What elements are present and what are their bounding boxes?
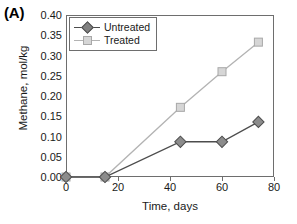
- x-tick-label: 60: [216, 182, 228, 193]
- y-tick-label: 0.35: [41, 30, 62, 41]
- y-tick-label: 0.20: [41, 91, 62, 102]
- x-tick-mark: [170, 177, 171, 181]
- x-tick-label: 40: [164, 182, 176, 193]
- legend-item-untreated: Untreated: [74, 21, 150, 34]
- y-tick-label: 0.40: [41, 10, 62, 21]
- data-point-marker: [218, 68, 226, 76]
- legend-label-untreated: Untreated: [100, 22, 150, 33]
- data-point-marker: [216, 136, 227, 147]
- x-tick-label: 0: [63, 182, 69, 193]
- y-tick-label: 0.05: [41, 151, 62, 162]
- y-axis-title: Methane, mol/kg: [17, 13, 29, 163]
- x-tick-mark: [118, 177, 119, 181]
- series-line-untreated: [66, 122, 258, 177]
- data-point-marker: [175, 136, 186, 147]
- data-point-marker: [254, 38, 262, 46]
- x-tick-mark: [222, 177, 223, 181]
- legend-item-treated: Treated: [74, 34, 150, 47]
- x-tick-label: 80: [268, 182, 280, 193]
- y-tick-label: 0.10: [41, 131, 62, 142]
- legend-swatch-diamond-icon: [74, 21, 100, 34]
- y-axis-tick-labels: 0.000.050.100.150.200.250.300.350.40: [0, 0, 62, 224]
- legend-swatch-square-icon: [74, 34, 100, 47]
- methane-chart-figure: (A) 0.000.050.100.150.200.250.300.350.40…: [0, 0, 297, 224]
- chart-legend: Untreated Treated: [69, 17, 157, 51]
- legend-label-treated: Treated: [100, 35, 140, 46]
- x-axis-title: Time, days: [66, 200, 274, 212]
- y-tick-label: 0.00: [41, 172, 62, 183]
- y-tick-label: 0.15: [41, 111, 62, 122]
- y-tick-label: 0.25: [41, 70, 62, 81]
- data-point-marker: [253, 116, 264, 127]
- data-point-marker: [176, 103, 184, 111]
- series-line-treated: [66, 42, 258, 177]
- x-tick-mark: [274, 177, 275, 181]
- x-tick-label: 20: [112, 182, 124, 193]
- y-tick-label: 0.30: [41, 50, 62, 61]
